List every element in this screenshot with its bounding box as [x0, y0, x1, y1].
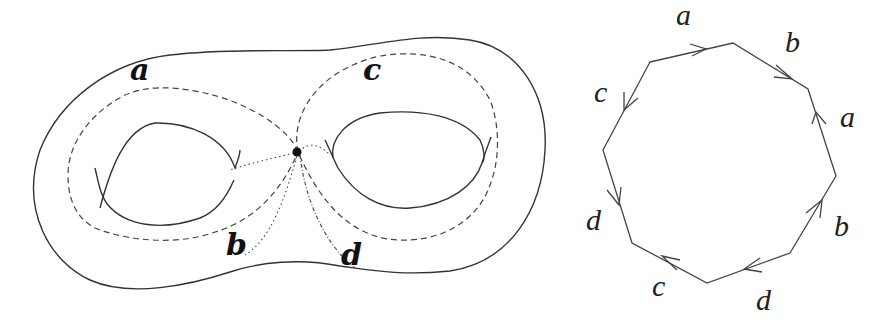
- octagon-label-right: a: [840, 100, 855, 133]
- arrow-lower-right-b: [806, 200, 822, 218]
- arrow-left-d: [607, 187, 621, 205]
- diagram-canvas: a c b d a b a: [0, 0, 879, 328]
- base-point: [293, 148, 302, 157]
- left-hole-bottom: [95, 168, 234, 225]
- label-b: b: [226, 227, 247, 262]
- octagon-polygon: a b a b d c d c: [586, 0, 855, 316]
- label-d: d: [341, 237, 362, 272]
- octagon-label-bottom-left: c: [652, 269, 665, 302]
- arrow-bottom-left-c: [662, 256, 680, 270]
- label-c: c: [363, 52, 381, 87]
- octagon-label-upper-left: c: [594, 75, 607, 108]
- figure: a c b d a b a: [0, 0, 879, 328]
- loop-b-return: [230, 152, 298, 170]
- surface-outline: [34, 37, 546, 288]
- octagon-label-bottom-right: d: [756, 283, 772, 316]
- octagon-label-left: d: [586, 203, 602, 236]
- octagon-edges: [603, 43, 836, 283]
- label-a: a: [130, 52, 149, 87]
- octagon-label-upper-right: b: [785, 25, 800, 58]
- left-hole-top: [100, 123, 240, 208]
- right-hole-top: [333, 112, 484, 163]
- arrow-upper-right-b: [774, 65, 792, 79]
- arrow-top-a: [690, 44, 706, 56]
- loop-d-return: [300, 145, 330, 155]
- octagon-label-lower-right: b: [834, 209, 849, 242]
- arrow-bottom-right-d: [744, 258, 762, 272]
- octagon-label-top: a: [676, 0, 691, 31]
- loop-c: [297, 54, 498, 240]
- loop-a: [68, 88, 298, 240]
- right-hole-bottom: [325, 140, 482, 208]
- genus-two-surface: a c b d: [34, 37, 546, 288]
